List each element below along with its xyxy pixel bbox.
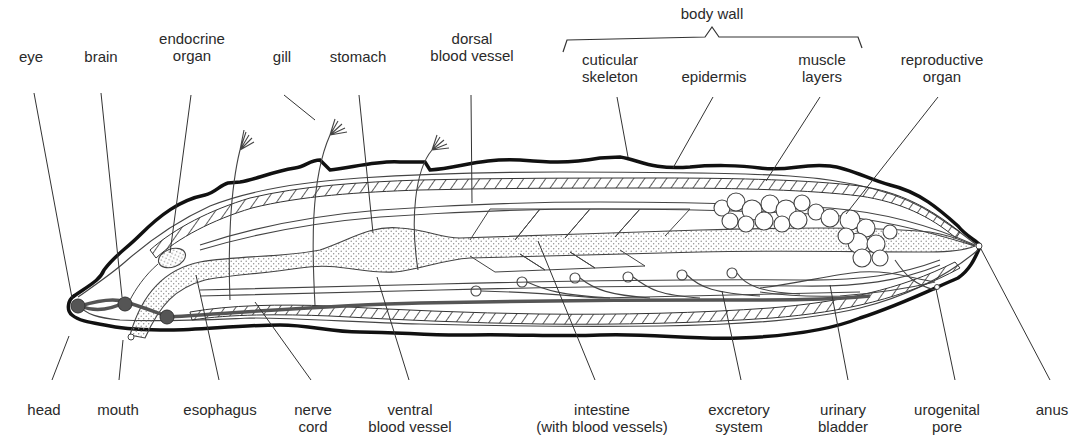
label-ventral-blood-vessel: ventral blood vessel bbox=[368, 401, 451, 435]
label-eye-line-1: eye bbox=[19, 48, 43, 65]
label-endocrine-organ-line-2: organ bbox=[159, 47, 225, 64]
label-nerve-cord: nerve cord bbox=[294, 401, 332, 435]
label-nerve-cord-line-1: nerve bbox=[294, 401, 332, 418]
gills bbox=[229, 119, 449, 305]
label-endocrine-organ-line-1: endocrine bbox=[159, 30, 225, 47]
label-stomach-line-1: stomach bbox=[330, 48, 387, 65]
label-cuticular-skeleton: cuticular skeleton bbox=[582, 51, 638, 85]
label-ventral-blood-vessel-line-2: blood vessel bbox=[368, 418, 451, 435]
label-reproductive-organ-line-2: organ bbox=[901, 68, 984, 85]
label-urogenital-pore-line-1: urogenital bbox=[914, 401, 980, 418]
label-intestine-line-2: (with blood vessels) bbox=[536, 418, 668, 435]
label-dorsal-blood-vessel: dorsal blood vessel bbox=[430, 30, 513, 64]
label-excretory-system-line-2: system bbox=[708, 418, 770, 435]
label-intestine-line-1: intestine bbox=[536, 401, 668, 418]
label-anus: anus bbox=[1036, 401, 1069, 418]
label-mouth: mouth bbox=[97, 401, 139, 418]
label-intestine: intestine (with blood vessels) bbox=[536, 401, 668, 435]
label-anus-line-1: anus bbox=[1036, 401, 1069, 418]
label-reproductive-organ-line-1: reproductive bbox=[901, 51, 984, 68]
label-head-line-1: head bbox=[27, 401, 60, 418]
label-muscle-layers-line-1: muscle bbox=[798, 51, 846, 68]
label-stomach: stomach bbox=[330, 48, 387, 65]
label-esophagus-line-1: esophagus bbox=[183, 401, 256, 418]
label-body-wall: body wall bbox=[681, 5, 744, 22]
body-wall-bracket bbox=[563, 27, 862, 52]
label-excretory-system: excretory system bbox=[708, 401, 770, 435]
label-esophagus: esophagus bbox=[183, 401, 256, 418]
label-cuticular-skeleton-line-1: cuticular bbox=[582, 51, 638, 68]
label-body-wall-text: body wall bbox=[681, 5, 744, 22]
label-nerve-cord-line-2: cord bbox=[294, 418, 332, 435]
anus-opening bbox=[976, 243, 982, 249]
label-eye: eye bbox=[19, 48, 43, 65]
label-urinary-bladder-line-2: bladder bbox=[818, 418, 868, 435]
label-cuticular-skeleton-line-2: skeleton bbox=[582, 68, 638, 85]
label-brain: brain bbox=[84, 48, 117, 65]
excretory-system-shape bbox=[471, 268, 860, 298]
label-urogenital-pore: urogenital pore bbox=[914, 401, 980, 435]
label-urinary-bladder-line-1: urinary bbox=[818, 401, 868, 418]
label-muscle-layers: muscle layers bbox=[798, 51, 846, 85]
label-excretory-system-line-1: excretory bbox=[708, 401, 770, 418]
label-gill: gill bbox=[273, 48, 291, 65]
label-endocrine-organ: endocrine organ bbox=[159, 30, 225, 64]
label-urogenital-pore-line-2: pore bbox=[914, 418, 980, 435]
label-dorsal-blood-vessel-line-1: dorsal bbox=[430, 30, 513, 47]
label-epidermis-line-1: epidermis bbox=[681, 68, 746, 85]
body-plan-diagram: body wall eye brain endocrine organ gill… bbox=[0, 0, 1084, 441]
subesophageal-ganglion bbox=[160, 310, 174, 324]
label-dorsal-blood-vessel-line-2: blood vessel bbox=[430, 47, 513, 64]
eye-ganglion bbox=[71, 299, 85, 313]
label-urinary-bladder: urinary bladder bbox=[818, 401, 868, 435]
label-gill-line-1: gill bbox=[273, 48, 291, 65]
label-ventral-blood-vessel-line-1: ventral bbox=[368, 401, 451, 418]
label-head: head bbox=[27, 401, 60, 418]
label-reproductive-organ: reproductive organ bbox=[901, 51, 984, 85]
label-mouth-line-1: mouth bbox=[97, 401, 139, 418]
label-epidermis: epidermis bbox=[681, 68, 746, 85]
mouth-opening bbox=[128, 334, 134, 340]
urogenital-pore-opening bbox=[935, 285, 940, 290]
label-brain-line-1: brain bbox=[84, 48, 117, 65]
label-muscle-layers-line-2: layers bbox=[798, 68, 846, 85]
